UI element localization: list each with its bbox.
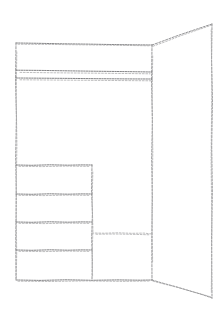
stacked-row-divider-1 — [16, 165, 92, 166]
stacked-row-divider-4 — [16, 250, 92, 251]
stacked-row-divider-3 — [16, 222, 92, 223]
sketch-canvas: Two-panel perspective wireframe: a flat … — [0, 0, 224, 313]
stacked-row-divider-2 — [16, 194, 92, 195]
side-panel-perspective — [152, 24, 212, 298]
side-panel-face — [152, 24, 212, 298]
wireframe-diagram — [0, 0, 224, 313]
